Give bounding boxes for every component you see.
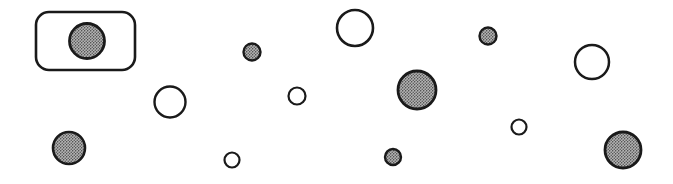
open-circle-tiny-lower-left[interactable]	[225, 153, 240, 168]
filled-circle-tiny-right[interactable]	[480, 28, 497, 45]
filled-circle-tiny-lower[interactable]	[385, 149, 401, 165]
filled-circle-boxed[interactable]	[70, 24, 105, 59]
open-circle-tiny-right[interactable]	[512, 120, 527, 135]
open-circle-tiny-center[interactable]	[289, 88, 306, 105]
open-circle-left[interactable]	[155, 87, 186, 118]
figure-canvas	[0, 0, 673, 184]
open-circle-top-center[interactable]	[337, 10, 373, 46]
filled-circle-tiny-upper[interactable]	[244, 44, 261, 61]
filled-circle-lower-right[interactable]	[605, 132, 641, 168]
filled-circle-small-left[interactable]	[53, 132, 85, 164]
circle-diagram	[0, 0, 673, 184]
filled-circle-large-center[interactable]	[398, 71, 436, 109]
open-circle-right[interactable]	[575, 45, 609, 79]
